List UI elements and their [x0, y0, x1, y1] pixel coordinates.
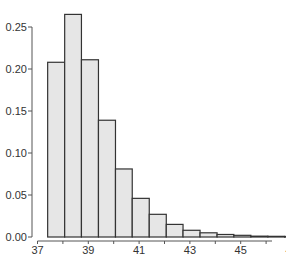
histogram-bar: [81, 60, 98, 237]
y-tick-label: 0.05: [6, 189, 27, 201]
x-tick-label: 41: [133, 244, 145, 256]
y-tick-label: 0.00: [6, 231, 27, 243]
x-tick-label: 47: [285, 244, 286, 256]
x-tick-label: 45: [235, 244, 247, 256]
x-tick-label: 37: [31, 244, 43, 256]
histogram-bar: [166, 224, 183, 237]
histogram-bar: [217, 234, 234, 237]
histogram-bar: [48, 62, 65, 237]
y-tick-label: 0.25: [6, 21, 27, 33]
x-tick-label: 39: [82, 244, 94, 256]
histogram-bar: [115, 169, 132, 237]
x-axis: 37394143454749: [31, 241, 286, 256]
histogram-bar: [234, 235, 251, 237]
y-tick-label: 0.10: [6, 147, 27, 159]
histogram-bar: [98, 120, 115, 237]
histogram-bar: [251, 236, 268, 237]
y-tick-label: 0.15: [6, 105, 27, 117]
x-tick-label: 43: [184, 244, 196, 256]
histogram-bar: [132, 198, 149, 237]
histogram-bar: [268, 236, 285, 237]
histogram-bar: [65, 14, 82, 237]
histogram-bar: [183, 230, 200, 237]
y-tick-label: 0.20: [6, 63, 27, 75]
y-axis: 0.000.050.100.150.200.25: [6, 21, 32, 243]
histogram-chart: 0.000.050.100.150.200.25 37394143454749: [0, 0, 286, 257]
histogram-bars: [48, 14, 286, 237]
histogram-bar: [285, 236, 286, 237]
histogram-bar: [200, 233, 217, 237]
histogram-bar: [149, 214, 166, 237]
